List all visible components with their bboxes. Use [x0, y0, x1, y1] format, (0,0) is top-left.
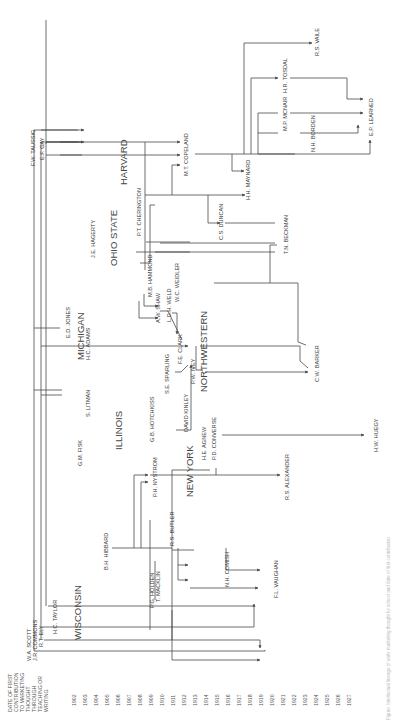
person-label-ivey: P.W. IVEY — [190, 358, 196, 384]
person-label-macklin: T. MACKLIN — [155, 571, 161, 602]
person-label-borden: N.H. BORDEN — [310, 115, 316, 152]
year-tick: 1908 — [137, 694, 143, 706]
person-label-kinley: DAVID KINLEY — [183, 394, 189, 432]
year-tick: 1916 — [225, 694, 231, 706]
year-tick: 1920 — [269, 694, 275, 706]
person-label-fisk: G.M. FISK — [77, 440, 83, 466]
year-tick: 1921 — [280, 694, 286, 706]
person-label-ely: R.T. ELY — [38, 625, 44, 647]
year-tick: 1909 — [148, 694, 154, 706]
person-label-alexander: R.S. ALEXANDER — [284, 454, 290, 500]
year-tick: 1907 — [126, 694, 132, 706]
year-tick: 1918 — [247, 694, 253, 706]
person-label-duncan: C.S. DUNCAN — [218, 204, 224, 240]
year-tick: 1926 — [335, 694, 341, 706]
school-label-new-york: NEW YORK — [184, 445, 195, 497]
person-label-sparling: S.E. SPARLING — [164, 354, 170, 394]
person-label-gay: E.F. GAY — [39, 137, 45, 160]
year-tick: 1914 — [203, 694, 209, 706]
year-tick: 1905 — [104, 694, 110, 706]
year-tick: 1925 — [324, 694, 330, 706]
year-tick: 1913 — [192, 694, 198, 706]
figure-caption: Figure: Intellectual lineage of early ma… — [386, 537, 391, 720]
person-label-tosdal: H.R. TOSDAL — [282, 58, 288, 93]
person-label-vaile: R.S. VAILE — [314, 28, 320, 56]
school-label-wisconsin: WISCONSIN — [72, 585, 83, 640]
person-label-converse: P.D. CONVERSE — [211, 417, 217, 460]
year-tick: 1923 — [302, 694, 308, 706]
school-label-harvard: HARVARD — [118, 139, 129, 185]
axis-heading: DATE OF FIRST CONTRIBUTION TO MARKETING … — [7, 672, 49, 712]
person-label-beckman: T.N. BECKMAN — [283, 215, 289, 254]
person-label-mcnair: M.P. MCNAIR — [282, 97, 288, 131]
person-label-hammond: M.B. HAMMOND — [147, 254, 153, 297]
person-label-learned: E.P. LEARNED — [368, 98, 374, 136]
person-label-nystrom: P.H. NYSTROM — [152, 457, 158, 497]
year-tick: 1912 — [181, 694, 187, 706]
year-tick: 1922 — [291, 694, 297, 706]
person-label-taylor: H.C. TAYLOR — [52, 600, 58, 634]
person-label-maynard: H.H. MAYNARD — [245, 160, 251, 200]
year-tick: 1902 — [71, 694, 77, 706]
axis-heading-line: WRITING — [43, 690, 49, 712]
person-label-shaw: A.W. SHAW — [155, 292, 161, 323]
person-label-taussig: F.W. TAUSSIG — [30, 130, 36, 166]
year-tick: 1924 — [313, 694, 319, 706]
person-label-hibbard: B.H. HIBBARD — [103, 533, 109, 570]
year-tick: 1906 — [115, 694, 121, 706]
person-label-huegy: H.W. HUEGY — [373, 418, 379, 452]
person-label-agnew: H.E. AGNEW — [201, 426, 207, 460]
year-axis: 1902 1903 1904 1905 1906 1907 1908 1909 … — [71, 694, 352, 706]
year-tick: 1915 — [214, 694, 220, 706]
year-tick: 1911 — [170, 695, 176, 706]
person-label-weld: L.D.H. WELD — [166, 288, 172, 322]
year-tick: 1917 — [236, 694, 242, 706]
person-label-jones: E.D. JONES — [65, 307, 71, 338]
person-label-comish: N.H. COMISH — [224, 552, 230, 587]
year-tick: 1919 — [258, 694, 264, 706]
year-tick: 1927 — [346, 694, 352, 706]
person-label-litman: S. LITMAN — [85, 390, 91, 417]
year-tick: 1904 — [93, 694, 99, 706]
person-label-weidler: W.C. WEIDLER — [174, 263, 180, 302]
person-label-vaughan: F.L. VAUGHAN — [273, 560, 279, 598]
person-label-barker: C.W. BARKER — [314, 345, 320, 382]
person-label-clark: F.E. CLARK — [177, 334, 183, 364]
person-label-butler: R.S. BUTLER — [169, 511, 175, 546]
school-label-northwestern: NORTHWESTERN — [198, 311, 209, 392]
marketing-thought-lineage-diagram: DATE OF FIRST CONTRIBUTION TO MARKETING … — [0, 0, 395, 727]
school-label-illinois: ILLINOIS — [113, 411, 124, 450]
school-label-michigan: MICHIGAN — [75, 312, 86, 360]
year-tick: 1903 — [82, 694, 88, 706]
person-label-copeland: M.T. COPELAND — [183, 133, 189, 176]
school-label-ohio-state: OHIO STATE — [108, 210, 119, 266]
person-label-hotchkiss: G.B. HOTCHKISS — [149, 396, 155, 442]
person-label-cherington: P.T. CHERINGTON — [136, 188, 142, 236]
year-tick: 1910 — [159, 694, 165, 706]
person-label-hagerty: J.E. HAGERTY — [90, 220, 96, 258]
